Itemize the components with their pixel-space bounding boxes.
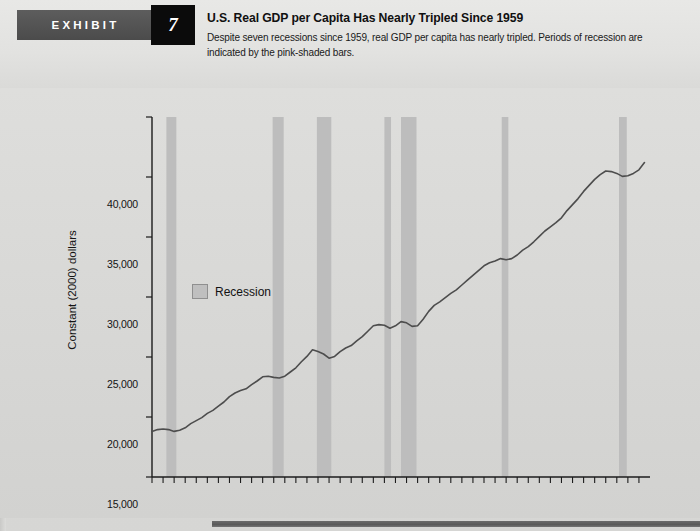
- recession-band: [502, 117, 509, 477]
- y-tick-label: 40,000: [84, 198, 138, 210]
- chart-panel: Constant (2000) dollars 10,00015,00020,0…: [0, 88, 700, 518]
- exhibit-number: 7: [151, 5, 195, 45]
- y-tick-label: 25,000: [84, 378, 138, 390]
- recession-legend-swatch: [192, 284, 208, 299]
- y-axis-title: Constant (2000) dollars: [66, 190, 78, 390]
- page-title: U.S. Real GDP per Capita Has Nearly Trip…: [207, 11, 687, 25]
- recession-band: [317, 117, 331, 477]
- exhibit-page: EXHIBIT 7 U.S. Real GDP per Capita Has N…: [0, 0, 700, 531]
- exhibit-header: EXHIBIT 7 U.S. Real GDP per Capita Has N…: [0, 0, 700, 88]
- y-tick-label: 35,000: [84, 258, 138, 270]
- y-tick-label: 20,000: [84, 438, 138, 450]
- footer-rule: [212, 521, 700, 527]
- recession-legend-label: Recession: [215, 285, 271, 299]
- recession-band: [619, 117, 627, 477]
- exhibit-label: EXHIBIT: [17, 10, 151, 40]
- recession-band: [273, 117, 284, 477]
- recession-band: [166, 117, 176, 477]
- y-tick-label: 30,000: [84, 318, 138, 330]
- recession-band: [401, 117, 416, 477]
- chart-legend: Recession: [192, 284, 271, 299]
- line-chart: [0, 88, 700, 518]
- y-tick-label: 15,000: [84, 498, 138, 510]
- page-subtitle: Despite seven recessions since 1959, rea…: [207, 31, 677, 60]
- recession-band: [384, 117, 391, 477]
- tick-marks: [146, 117, 639, 483]
